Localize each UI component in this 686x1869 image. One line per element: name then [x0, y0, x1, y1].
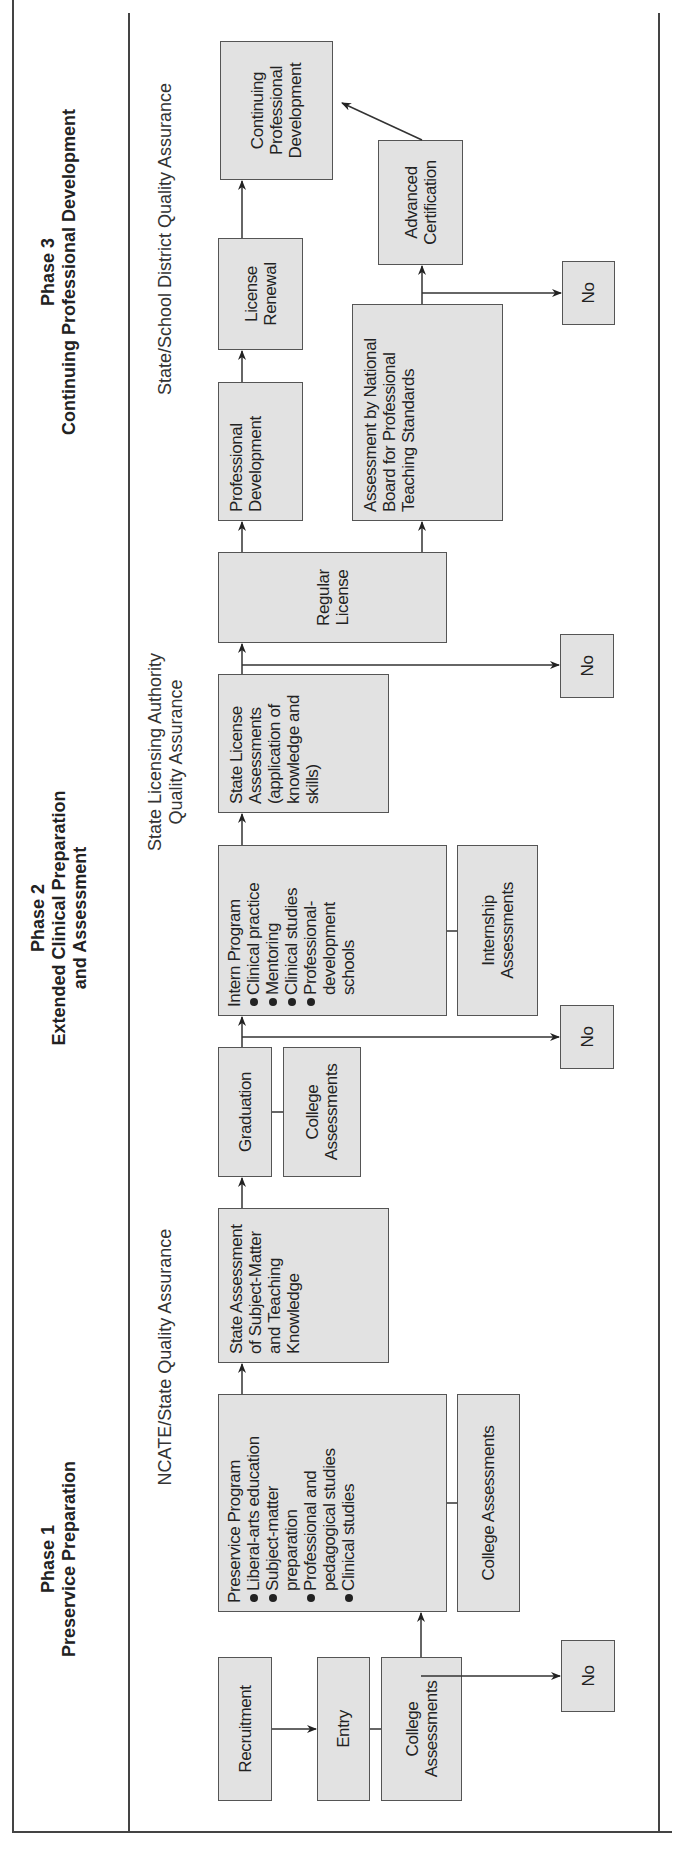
connector-layer	[0, 0, 686, 1869]
teacher-development-flowchart: Phase 1 Preservice Preparation Phase 2 E…	[0, 0, 686, 1869]
arrow-advanced-to-cpd	[342, 103, 422, 140]
